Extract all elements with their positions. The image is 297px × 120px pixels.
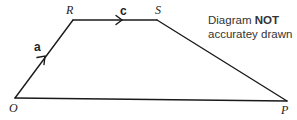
point-label-R: R (66, 3, 73, 18)
not-accurate-note: Diagram NOT accuratey drawn (208, 13, 292, 41)
point-label-P: P (281, 103, 288, 118)
vector-label-a: a (34, 40, 41, 54)
point-label-O: O (9, 101, 18, 116)
vector-label-c: c (120, 4, 127, 18)
edge-OP (15, 98, 287, 101)
note-line2: accuratey drawn (208, 28, 292, 40)
note-prefix: Diagram (208, 14, 255, 26)
note-emphasis: NOT (255, 14, 279, 26)
point-label-S: S (155, 3, 161, 18)
